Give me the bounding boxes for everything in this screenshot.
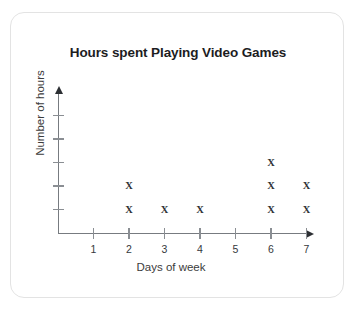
x-axis-arrow-icon (306, 230, 314, 238)
data-mark-day7-h2: X (299, 179, 315, 193)
x-axis-tick-2 (128, 228, 129, 239)
x-axis-tick-label-5: 5 (226, 243, 246, 255)
x-axis-tick-label-1: 1 (84, 243, 104, 255)
chart-card: Hours spent Playing Video Games Number o… (10, 12, 344, 298)
y-axis-tick-4 (53, 138, 64, 139)
data-mark-day7-h1: X (299, 203, 315, 217)
x-axis-tick-label-3: 3 (155, 243, 175, 255)
y-axis-tick-5 (53, 115, 64, 116)
data-mark-day3-h1: X (157, 203, 173, 217)
x-axis-tick-4 (199, 228, 200, 239)
x-axis-tick-1 (93, 228, 94, 239)
x-axis-tick-label-6: 6 (261, 243, 281, 255)
data-mark-day4-h1: X (192, 203, 208, 217)
y-axis-tick-2 (53, 185, 64, 186)
y-axis-label: Number of hours (34, 48, 46, 178)
y-axis-tick-3 (53, 162, 64, 163)
data-mark-day6-h2: X (263, 179, 279, 193)
x-axis-tick-3 (164, 228, 165, 239)
plot-area: Number of hours Days of week 1234567 XXX… (11, 13, 345, 299)
x-axis-tick-5 (235, 228, 236, 239)
data-mark-day2-h2: X (121, 179, 137, 193)
data-mark-day6-h3: X (263, 156, 279, 170)
x-axis-tick-label-7: 7 (297, 243, 317, 255)
y-axis-tick-1 (53, 209, 64, 210)
x-axis-tick-7 (306, 228, 307, 239)
x-axis-label: Days of week (61, 261, 281, 273)
data-mark-day6-h1: X (263, 203, 279, 217)
x-axis-tick-label-4: 4 (190, 243, 210, 255)
data-mark-day2-h1: X (121, 203, 137, 217)
x-axis-tick-label-2: 2 (119, 243, 139, 255)
x-axis-tick-6 (270, 228, 271, 239)
y-axis-arrow-icon (55, 86, 63, 94)
